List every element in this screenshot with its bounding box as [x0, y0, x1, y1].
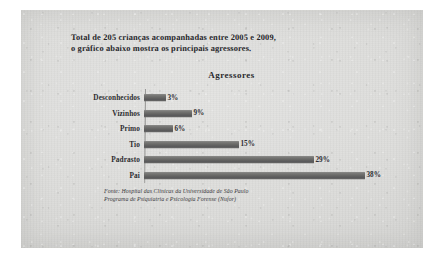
bar-vizinhos: [144, 110, 192, 117]
bar-row-padrasto: Padrasto 29%: [62, 153, 392, 166]
category-label-desconhecidos: Desconhecidos: [62, 93, 144, 102]
source-line-1: Fonte: Hospital das Clínicas da Universi…: [104, 187, 249, 195]
category-label-primo: Primo: [62, 124, 144, 133]
bar-wrap-pai: 38%: [144, 171, 392, 179]
bar-rows: Desconhecidos 3% Vizinhos 9% Primo 6% Ti…: [62, 88, 392, 184]
bar-wrap-vizinhos: 9%: [144, 109, 392, 117]
category-label-padrasto: Padrasto: [62, 155, 144, 164]
page-headline: Total de 205 crianças acompanhadas entre…: [71, 32, 371, 55]
category-label-vizinhos: Vizinhos: [62, 109, 144, 118]
source-line-2: Programa de Psiquiatria e Psicologia For…: [104, 195, 249, 203]
bar-row-desconhecidos: Desconhecidos 3%: [62, 91, 392, 104]
bar-value-padrasto: 29%: [316, 156, 330, 164]
headline-line-1: Total de 205 crianças acompanhadas entre…: [71, 32, 371, 43]
bar-wrap-primo: 6%: [144, 125, 392, 133]
bar-value-desconhecidos: 3%: [168, 94, 179, 102]
bar-wrap-tio: 15%: [144, 140, 392, 148]
bar-value-primo: 6%: [175, 125, 186, 133]
headline-line-2: o gráfico abaixo mostra os principais ag…: [71, 43, 371, 54]
bar-wrap-padrasto: 29%: [144, 156, 392, 164]
bar-row-primo: Primo 6%: [62, 122, 392, 135]
category-label-pai: Pai: [62, 171, 144, 180]
bar-pai: [144, 172, 365, 179]
category-label-tio: Tio: [62, 140, 144, 149]
bar-tio: [144, 141, 239, 148]
bar-row-pai: Pai 38%: [62, 169, 392, 182]
bar-row-vizinhos: Vizinhos 9%: [62, 107, 392, 120]
bar-padrasto: [144, 156, 314, 163]
bar-value-pai: 38%: [367, 171, 381, 179]
bar-value-tio: 15%: [241, 140, 255, 148]
bar-desconhecidos: [144, 94, 166, 101]
bar-row-tio: Tio 15%: [62, 138, 392, 151]
bar-chart-plot-area: Desconhecidos 3% Vizinhos 9% Primo 6% Ti…: [62, 88, 392, 184]
chart-title: Agressores: [0, 70, 445, 80]
source-note: Fonte: Hospital das Clínicas da Universi…: [104, 187, 249, 203]
bar-wrap-desconhecidos: 3%: [144, 94, 392, 102]
bar-value-vizinhos: 9%: [194, 109, 205, 117]
bar-primo: [144, 125, 173, 132]
